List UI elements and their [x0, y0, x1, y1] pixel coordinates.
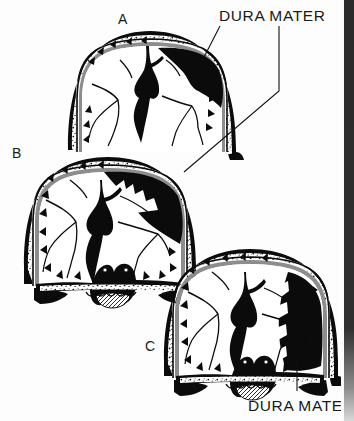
- panel-a-letter: A: [118, 11, 128, 27]
- panel-a: A: [68, 11, 244, 160]
- page-edge-strip: [344, 0, 354, 421]
- anatomical-plate: A: [0, 0, 354, 421]
- panel-b: B: [12, 145, 205, 308]
- figure-root: A: [0, 0, 354, 421]
- panel-b-letter: B: [12, 145, 22, 161]
- page-edge-gutter: [341, 0, 344, 421]
- panel-c-letter: C: [145, 338, 156, 354]
- callout-top-dura-mater: DURA MATER: [219, 7, 325, 24]
- callout-bottom-dura-mater: DURA MATER: [248, 397, 354, 414]
